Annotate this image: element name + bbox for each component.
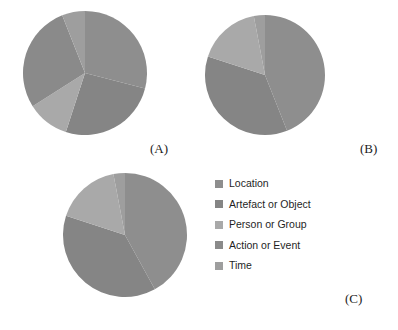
legend-item[interactable]: Time [215,260,311,271]
pie-chart-figure: (A) (B) (C) LocationArtefact or ObjectPe… [0,0,398,330]
pie-svg [21,9,149,137]
chart-legend: LocationArtefact or ObjectPerson or Grou… [215,178,311,271]
panel-label-a: (A) [150,141,168,157]
legend-swatch-icon [215,200,223,208]
pie-svg [61,171,189,299]
legend-item[interactable]: Location [215,178,311,189]
legend-item[interactable]: Person or Group [215,219,311,230]
pie-chart-b [203,13,327,137]
legend-item-label: Person or Group [229,219,307,230]
panel-label-b: (B) [360,141,377,157]
legend-item-label: Action or Event [229,240,300,251]
pie-chart-c [61,171,189,299]
legend-item-label: Location [229,178,269,189]
legend-swatch-icon [215,262,223,270]
legend-item[interactable]: Action or Event [215,240,311,251]
legend-item-label: Time [229,260,252,271]
legend-item-label: Artefact or Object [229,199,311,210]
panel-label-c: (C) [345,291,362,307]
pie-svg [203,13,327,137]
legend-swatch-icon [215,241,223,249]
legend-item[interactable]: Artefact or Object [215,199,311,210]
legend-swatch-icon [215,221,223,229]
pie-chart-a [21,9,149,137]
legend-swatch-icon [215,180,223,188]
